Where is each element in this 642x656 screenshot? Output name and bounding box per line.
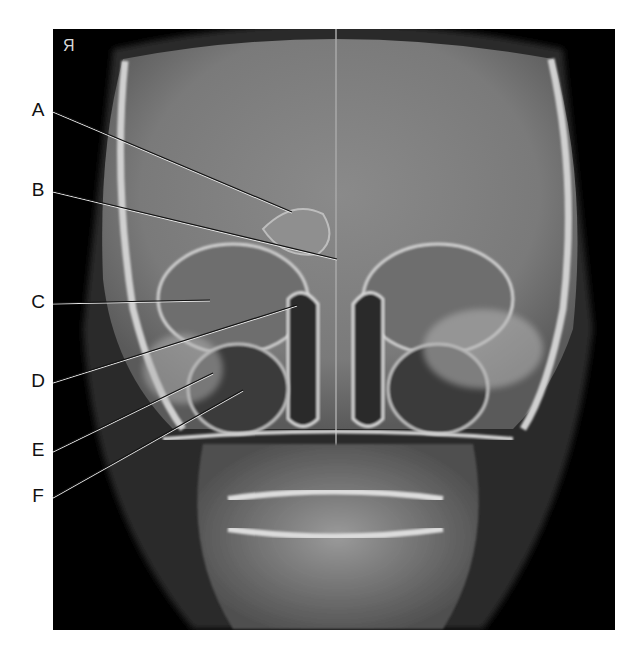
label-f: F [28,485,48,507]
skull-xray-drawing [53,29,615,630]
label-b: B [28,179,48,201]
label-d: D [28,370,48,392]
skull-xray-image: Я [53,29,615,630]
label-a: A [28,99,48,121]
label-c: C [28,291,48,313]
orientation-marker: Я [63,37,75,55]
label-e: E [28,439,48,461]
